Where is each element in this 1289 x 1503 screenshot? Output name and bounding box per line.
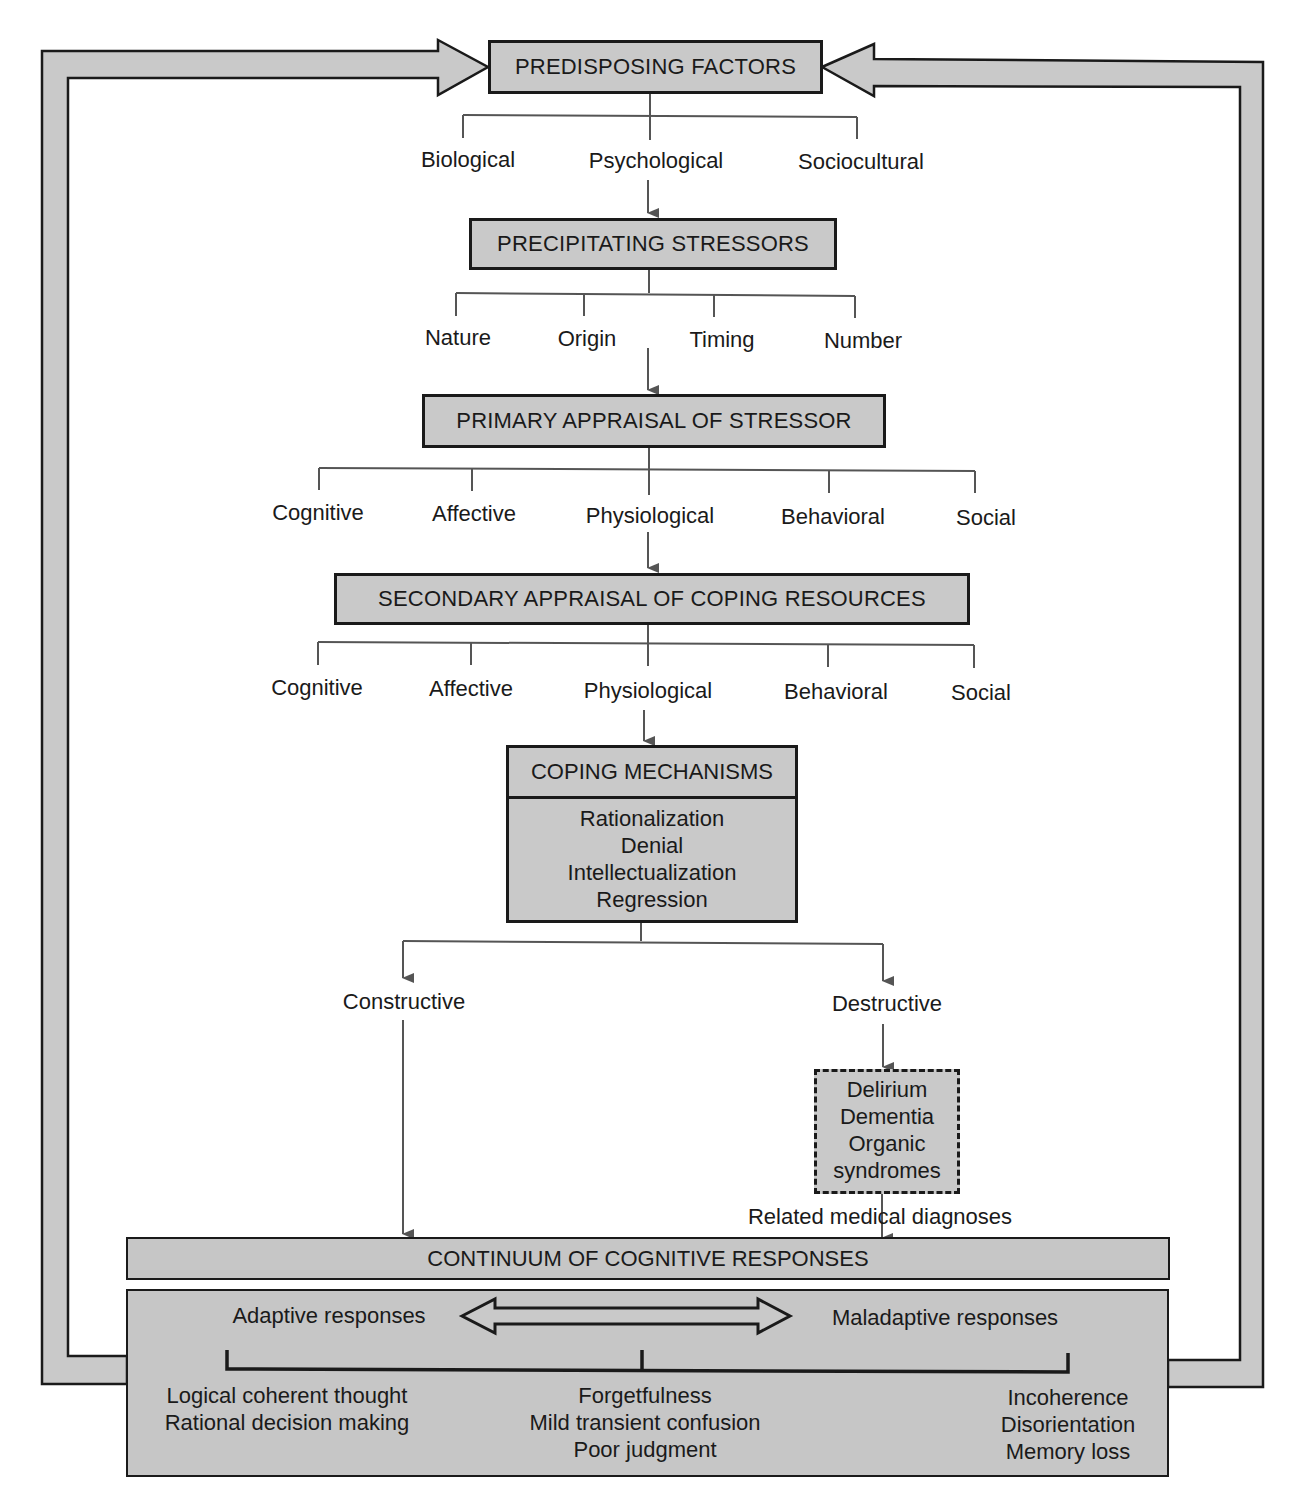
middle-item: Mild transient confusion xyxy=(529,1409,760,1436)
double-arrow-icon xyxy=(0,0,1289,1503)
adaptive-responses-label: Adaptive responses xyxy=(232,1303,425,1329)
middle-item: Poor judgment xyxy=(529,1436,760,1463)
maladaptive-item: Disorientation xyxy=(1001,1411,1136,1438)
maladaptive-responses-label: Maladaptive responses xyxy=(832,1305,1058,1331)
middle-items: Forgetfulness Mild transient confusion P… xyxy=(529,1382,760,1463)
adaptive-items: Logical coherent thought Rational decisi… xyxy=(165,1382,410,1436)
middle-item: Forgetfulness xyxy=(529,1382,760,1409)
maladaptive-items: Incoherence Disorientation Memory loss xyxy=(1001,1384,1136,1465)
adaptive-item: Rational decision making xyxy=(165,1409,410,1436)
maladaptive-item: Memory loss xyxy=(1001,1438,1136,1465)
adaptive-item: Logical coherent thought xyxy=(165,1382,410,1409)
maladaptive-item: Incoherence xyxy=(1001,1384,1136,1411)
